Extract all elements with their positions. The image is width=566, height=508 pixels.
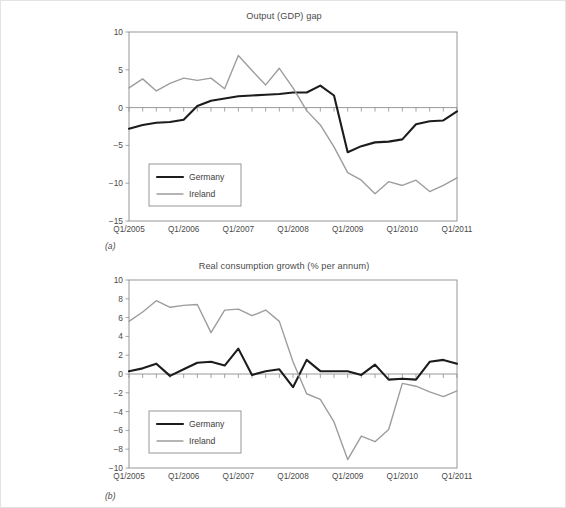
chart-legend: GermanyIreland: [149, 164, 241, 206]
y-axis-tick-label: −10: [109, 178, 124, 188]
y-axis-tick-label: 0: [118, 369, 123, 379]
chart-panel-consumption-growth: Real consumption growth (% per annum) 10…: [1, 255, 566, 508]
y-axis-tick-label: −5: [113, 140, 123, 150]
legend-label-germany: Germany: [189, 419, 225, 429]
chart-panel-output-gap: Output (GDP) gap 1050−5−10−15Q1/2005Q1/2…: [1, 5, 566, 257]
chart-legend: GermanyIreland: [149, 411, 241, 453]
y-axis-tick-label: 10: [114, 27, 124, 37]
x-axis-tick-label: Q1/2006: [168, 472, 200, 481]
x-axis-tick-label: Q1/2005: [113, 225, 145, 234]
y-axis-tick-label: 6: [118, 313, 123, 323]
y-axis-tick-label: 4: [118, 331, 123, 341]
plot-area-a: 1050−5−10−15Q1/2005Q1/2006Q1/2007Q1/2008…: [1, 5, 566, 257]
y-axis-tick-label: −6: [113, 425, 123, 435]
y-axis-tick-label: 5: [118, 65, 123, 75]
x-axis-tick-label: Q1/2008: [277, 472, 309, 481]
panel-label-b: (b): [105, 491, 116, 501]
y-axis-tick-label: −2: [113, 388, 123, 398]
legend-label-germany: Germany: [189, 172, 225, 182]
x-axis-tick-label: Q1/2011: [442, 225, 473, 234]
series-line-germany: [129, 349, 457, 388]
y-axis-tick-label: 10: [114, 275, 124, 285]
x-axis-tick-label: Q1/2007: [223, 225, 255, 234]
figure-page: Output (GDP) gap 1050−5−10−15Q1/2005Q1/2…: [0, 0, 566, 508]
x-axis-tick-label: Q1/2011: [442, 472, 473, 481]
y-axis-tick-label: 2: [118, 350, 123, 360]
chart-svg-b: 1086420−2−4−6−8−10Q1/2005Q1/2006Q1/2007Q…: [1, 255, 566, 508]
x-axis-tick-label: Q1/2007: [223, 472, 255, 481]
panel-label-a: (a): [105, 241, 116, 251]
legend-label-ireland: Ireland: [189, 189, 215, 199]
x-axis-tick-label: Q1/2009: [332, 472, 364, 481]
x-axis-tick-label: Q1/2006: [168, 225, 200, 234]
x-axis-tick-label: Q1/2009: [332, 225, 364, 234]
y-axis-tick-label: −8: [113, 444, 123, 454]
plot-area-b: 1086420−2−4−6−8−10Q1/2005Q1/2006Q1/2007Q…: [1, 255, 566, 508]
x-axis-tick-label: Q1/2010: [387, 472, 419, 481]
y-axis-tick-label: 8: [118, 294, 123, 304]
legend-label-ireland: Ireland: [189, 436, 215, 446]
series-line-germany: [129, 86, 457, 153]
x-axis-tick-label: Q1/2010: [387, 225, 419, 234]
y-axis-tick-label: −4: [113, 407, 123, 417]
x-axis-tick-label: Q1/2005: [113, 472, 145, 481]
x-axis-tick-label: Q1/2008: [277, 225, 309, 234]
y-axis-tick-label: 0: [118, 103, 123, 113]
chart-svg-a: 1050−5−10−15Q1/2005Q1/2006Q1/2007Q1/2008…: [1, 5, 566, 257]
